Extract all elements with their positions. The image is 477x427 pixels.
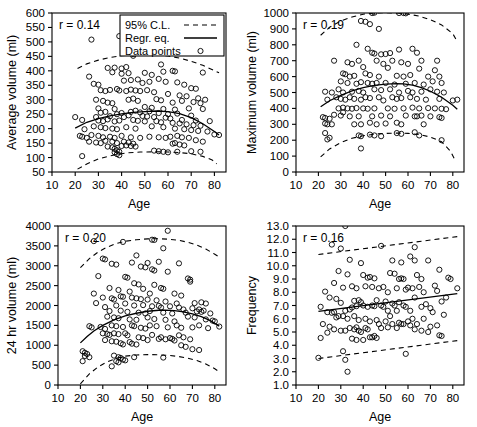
data-point — [374, 298, 379, 303]
data-point — [417, 284, 422, 289]
y-tick-label: 6.0 — [273, 313, 289, 325]
y-tick-label: 400 — [26, 65, 45, 77]
data-point — [367, 72, 372, 77]
data-point — [417, 66, 422, 71]
data-point — [331, 280, 336, 285]
data-point — [93, 301, 98, 306]
data-point — [109, 364, 114, 369]
data-point — [141, 286, 146, 291]
data-point — [179, 325, 184, 330]
data-point — [401, 106, 406, 111]
data-point — [142, 119, 147, 124]
y-tick-label: 900 — [270, 23, 289, 35]
data-point — [423, 97, 428, 102]
data-point — [205, 326, 210, 331]
y-tick-label: 500 — [270, 87, 289, 99]
data-point — [352, 314, 357, 319]
y-tick-label: 0 — [283, 166, 289, 178]
data-point — [331, 112, 336, 117]
data-point — [392, 82, 397, 87]
data-point — [365, 46, 370, 51]
data-point — [167, 304, 172, 309]
data-point — [403, 113, 408, 118]
data-point — [198, 149, 203, 154]
data-point — [165, 228, 170, 233]
data-point — [367, 120, 372, 125]
data-point — [176, 305, 181, 310]
data-point — [102, 304, 107, 309]
data-point — [129, 260, 134, 265]
x-tick-label: 20 — [69, 179, 82, 191]
data-point — [147, 79, 152, 84]
data-point — [325, 97, 330, 102]
data-point — [336, 268, 341, 273]
data-point — [419, 89, 424, 94]
data-point — [89, 132, 94, 137]
data-point — [184, 122, 189, 127]
lower-confidence-limit — [321, 133, 455, 160]
x-tick-label: 50 — [138, 179, 151, 191]
data-point — [432, 106, 437, 111]
x-axis-title: Age — [369, 197, 391, 211]
data-point — [367, 319, 372, 324]
data-point — [191, 99, 196, 104]
data-point — [100, 295, 105, 300]
data-point — [119, 71, 124, 76]
data-point — [91, 291, 96, 296]
data-point — [87, 74, 92, 79]
data-point — [392, 106, 397, 111]
data-point — [147, 291, 152, 296]
data-point — [118, 308, 123, 313]
data-point — [370, 114, 375, 119]
data-point — [361, 64, 366, 69]
data-point — [419, 276, 424, 281]
data-point — [96, 273, 101, 278]
data-point — [329, 90, 334, 95]
data-point — [163, 79, 168, 84]
data-point — [147, 134, 152, 139]
data-point — [161, 125, 166, 130]
data-point — [170, 100, 175, 105]
x-axis-title: Age — [131, 410, 153, 424]
data-point — [390, 321, 395, 326]
y-axis-title: Average volume (ml) — [5, 35, 19, 150]
data-point — [149, 72, 154, 77]
y-tick-label: 450 — [26, 50, 45, 62]
data-point — [80, 154, 85, 159]
x-axis-title: Age — [369, 410, 391, 424]
data-point — [318, 304, 323, 309]
lower-confidence-limit — [78, 152, 217, 169]
x-tick-label: 10 — [290, 179, 303, 191]
data-point — [372, 87, 377, 92]
data-point — [428, 114, 433, 119]
y-tick-label: 50 — [32, 166, 45, 178]
correlation-annotation: r = 0.14 — [59, 18, 100, 32]
data-point — [183, 344, 188, 349]
correlation-annotation: r = 0.20 — [65, 231, 106, 245]
data-point — [354, 286, 359, 291]
data-point — [110, 70, 115, 75]
data-point — [390, 58, 395, 63]
data-point — [405, 61, 410, 66]
x-tick-label: 30 — [334, 179, 347, 191]
data-point — [376, 74, 381, 79]
data-point — [408, 95, 413, 100]
y-tick-label: 550 — [26, 21, 45, 33]
x-tick-label: 40 — [119, 392, 132, 404]
data-point — [372, 106, 377, 111]
x-tick-label: 60 — [402, 392, 415, 404]
data-point — [381, 61, 386, 66]
lower-confidence-limit — [318, 341, 457, 359]
data-point — [426, 329, 431, 334]
data-point — [80, 359, 85, 364]
x-tick-label: 30 — [92, 179, 105, 191]
data-point — [175, 149, 180, 154]
data-point — [358, 261, 363, 266]
data-point — [127, 317, 132, 322]
x-tick-label: 20 — [312, 392, 325, 404]
data-point — [320, 321, 325, 326]
data-point — [347, 114, 352, 119]
data-point — [149, 124, 154, 129]
data-point — [387, 114, 392, 119]
scatter-figure-grid: 5010015020025030035040045050055060010203… — [0, 0, 477, 427]
